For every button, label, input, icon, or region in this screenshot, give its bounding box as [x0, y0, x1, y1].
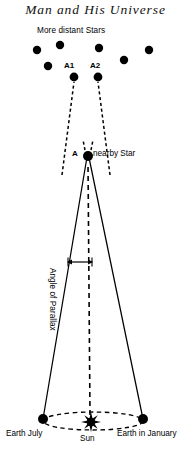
label-angle-of-parallax: Angle of Parallax — [48, 268, 56, 331]
label-earth-july: Earth July — [6, 430, 42, 438]
earth-january-dot — [138, 414, 148, 424]
label-nearby-star: nearby Star — [93, 150, 135, 158]
nearby-star-dot — [83, 151, 93, 161]
label-earth-in-january: Earth in January — [117, 430, 177, 438]
distant-star — [44, 62, 52, 70]
sight-line-july-to-a1 — [62, 82, 74, 175]
reference-stars-group — [70, 73, 103, 82]
ray-earth-january-to-star — [90, 160, 144, 419]
distant-star — [120, 56, 128, 64]
label-star-point-a: A — [72, 150, 78, 158]
distant-star — [33, 46, 41, 54]
label-a2: A2 — [90, 62, 100, 70]
star-upper-dashes — [83, 140, 93, 150]
distant-star — [145, 46, 153, 54]
distant-star — [95, 44, 103, 52]
label-sun: Sun — [80, 435, 95, 443]
reference-star-a1 — [70, 73, 79, 82]
label-a1: A1 — [64, 62, 74, 70]
earth-july-dot — [38, 414, 48, 424]
sun-starburst — [81, 412, 101, 432]
sight-line-january-to-a2 — [98, 82, 110, 175]
parallax-diagram-figure: Man and His Universe More distant Stars … — [0, 0, 191, 458]
reference-star-a2 — [94, 73, 103, 82]
label-more-distant-stars: More distant Stars — [37, 27, 105, 35]
parallax-triangle-group — [43, 160, 143, 419]
page-title: Man and His Universe — [0, 3, 191, 17]
upper-dash-left — [83, 140, 85, 150]
sun-star-axis-line — [88, 163, 90, 415]
distant-star — [56, 41, 64, 49]
